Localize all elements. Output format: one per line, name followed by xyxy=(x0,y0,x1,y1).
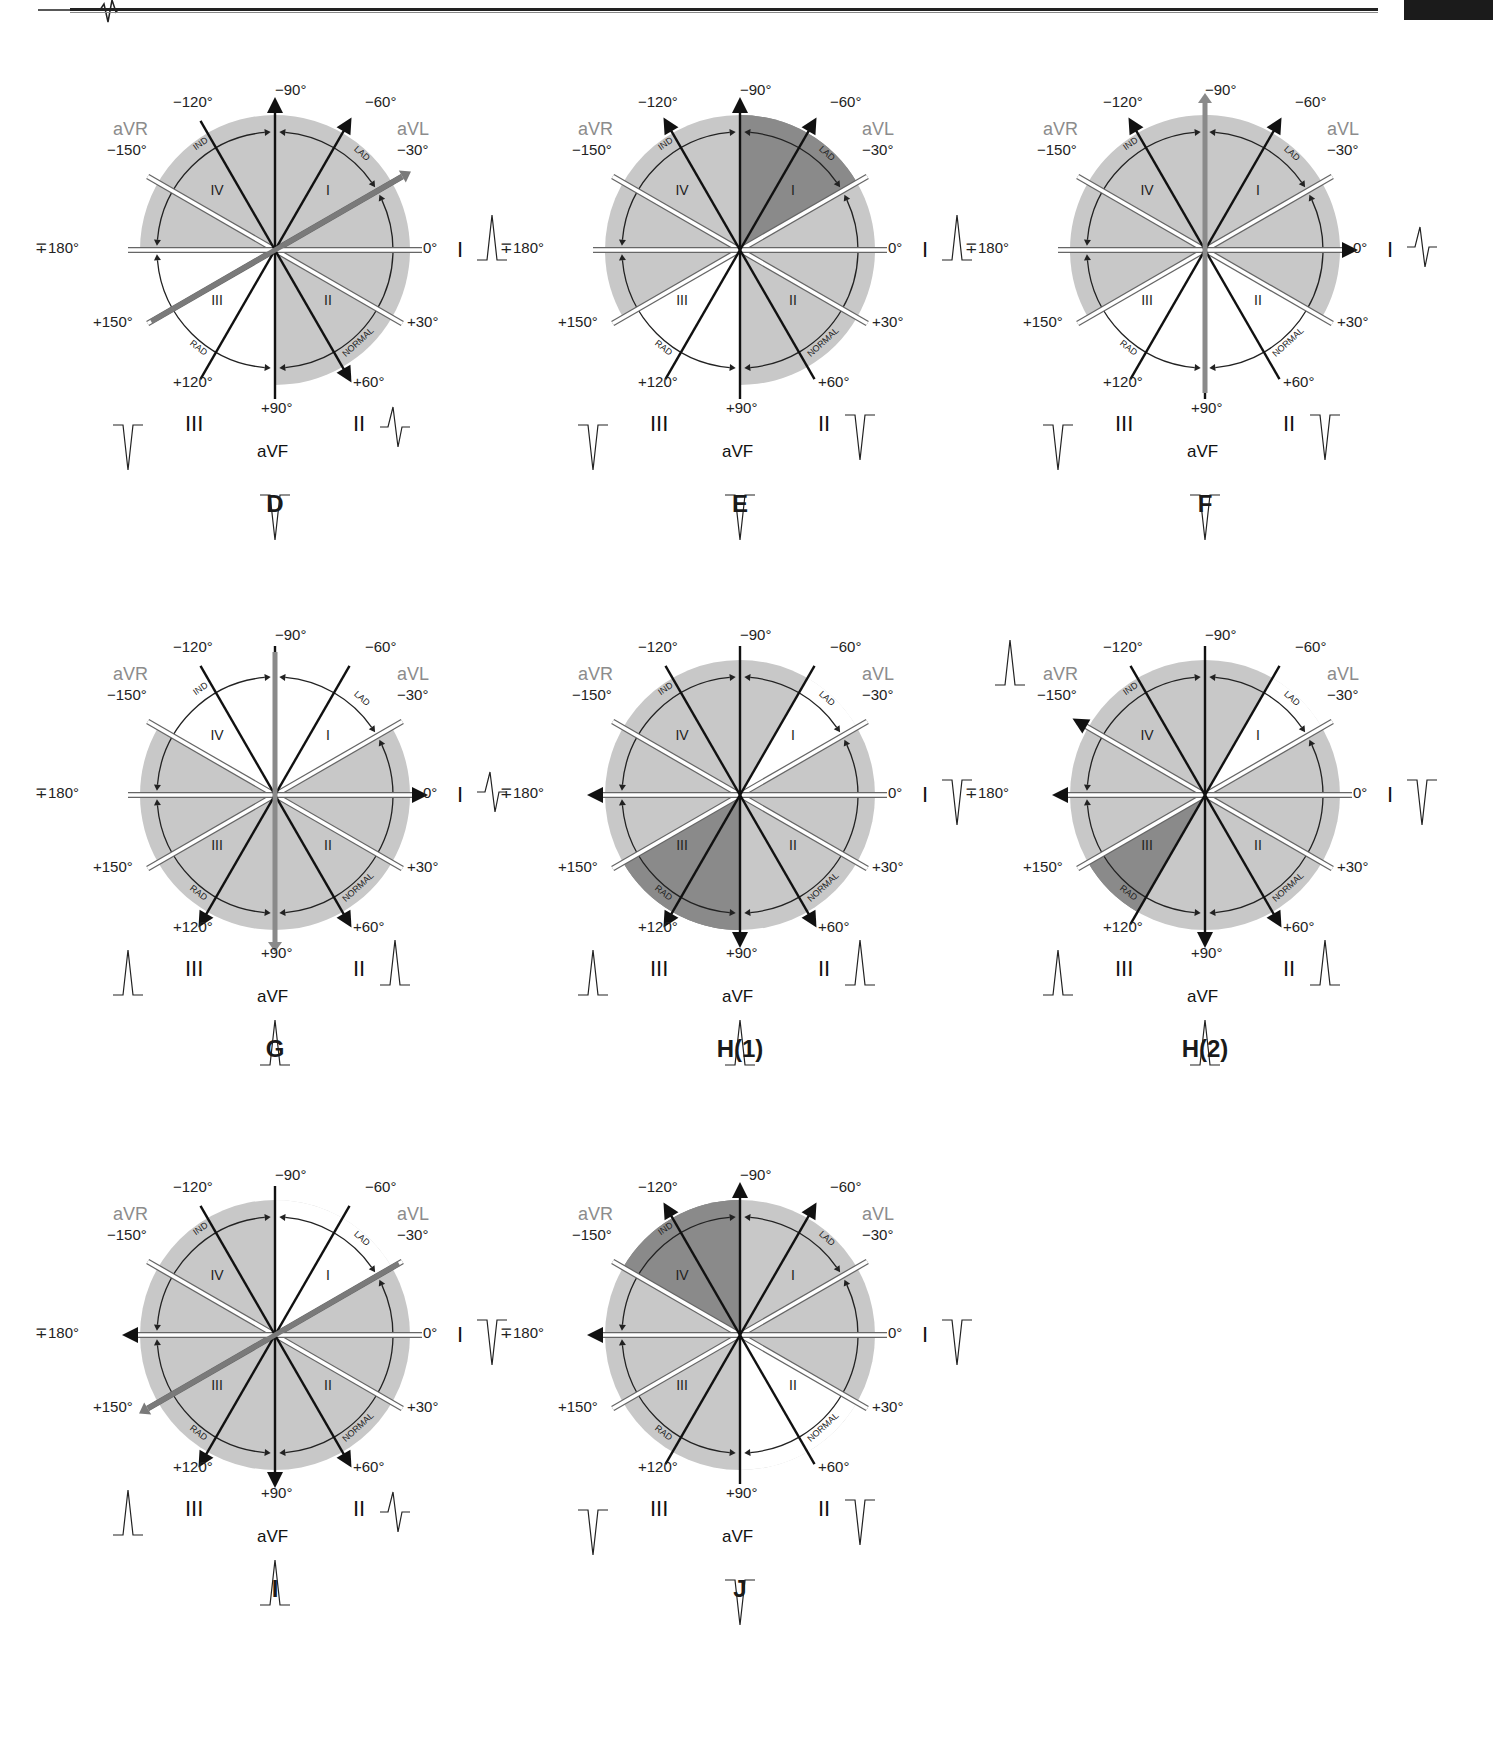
lead-label-avf: aVF xyxy=(1187,987,1218,1006)
angle-label-m120: −120° xyxy=(1103,638,1143,655)
angle-label-m30: −30° xyxy=(397,141,428,158)
angle-label-m150: −150° xyxy=(572,1226,612,1243)
qrs-wave-iii-icon xyxy=(113,950,143,995)
lead-label-i: I xyxy=(457,1322,463,1347)
angle-label-m150: −150° xyxy=(1037,686,1077,703)
lead-label-avf: aVF xyxy=(257,987,288,1006)
angle-label-p90: +90° xyxy=(1191,399,1222,416)
angle-label-m60: −60° xyxy=(830,638,861,655)
lead-label-avr: aVR xyxy=(578,1204,613,1224)
region-label-r3: III xyxy=(1141,292,1153,308)
angle-label-p180: ∓180° xyxy=(35,1324,79,1341)
qrs-wave-avr-icon xyxy=(995,640,1025,685)
qrs-wave-iii-icon xyxy=(578,950,608,995)
hexaxial-svg: −90°−120°−60°−150°−30°∓180°0°+150°+30°+1… xyxy=(5,620,465,1020)
angle-label-p120: +120° xyxy=(173,373,213,390)
angle-label-m150: −150° xyxy=(572,686,612,703)
lead-label-avl: aVL xyxy=(397,119,429,139)
angle-label-p180: ∓180° xyxy=(35,239,79,256)
arrowhead-icon xyxy=(732,97,748,113)
angle-label-p30: +30° xyxy=(1337,313,1368,330)
region-label-r1: I xyxy=(1256,182,1260,198)
lead-label-ii: II xyxy=(353,411,365,436)
lead-label-i: I xyxy=(922,782,928,807)
angle-label-m150: −150° xyxy=(572,141,612,158)
region-label-r4: IV xyxy=(675,727,689,743)
angle-label-p30: +30° xyxy=(872,313,903,330)
lead-label-iii: III xyxy=(1115,411,1133,436)
region-label-r1: I xyxy=(791,727,795,743)
region-label-r4: IV xyxy=(675,182,689,198)
lead-label-avf: aVF xyxy=(722,442,753,461)
diagram-caption: G xyxy=(215,1035,335,1063)
lead-label-avr: aVR xyxy=(1043,664,1078,684)
angle-label-m60: −60° xyxy=(1295,638,1326,655)
region-label-r1: I xyxy=(326,727,330,743)
lead-label-avf: aVF xyxy=(257,1527,288,1546)
hexaxial-diagram-g: −90°−120°−60°−150°−30°∓180°0°+150°+30°+1… xyxy=(45,640,505,1180)
lead-axes xyxy=(128,97,422,399)
angle-label-m120: −120° xyxy=(638,1178,678,1195)
angle-label-m60: −60° xyxy=(365,1178,396,1195)
angle-label-m30: −30° xyxy=(862,686,893,703)
angle-label-m120: −120° xyxy=(1103,93,1143,110)
angle-label-p120: +120° xyxy=(638,373,678,390)
angle-label-p90: +90° xyxy=(1191,944,1222,961)
lead-label-avl: aVL xyxy=(862,119,894,139)
angle-label-p90: +90° xyxy=(726,944,757,961)
hexaxial-diagram-e: −90°−120°−60°−150°−30°∓180°0°+150°+30°+1… xyxy=(510,95,970,635)
angle-label-p30: +30° xyxy=(407,858,438,875)
angle-label-p180: ∓180° xyxy=(965,784,1009,801)
region-label-r2: II xyxy=(324,1377,332,1393)
lead-label-iii: III xyxy=(185,411,203,436)
lead-label-ii: II xyxy=(818,1496,830,1521)
angle-label-p30: +30° xyxy=(407,313,438,330)
qrs-wave-iii-icon xyxy=(113,425,143,470)
region-label-r3: III xyxy=(211,292,223,308)
angle-label-p30: +30° xyxy=(1337,858,1368,875)
angle-label-zero: 0° xyxy=(423,1324,437,1341)
angle-label-m120: −120° xyxy=(173,638,213,655)
angle-label-p180: ∓180° xyxy=(965,239,1009,256)
qrs-wave-ii-icon xyxy=(1310,940,1340,985)
arrowhead-icon xyxy=(587,1327,603,1343)
lead-axes xyxy=(593,97,887,399)
lead-label-ii: II xyxy=(818,411,830,436)
lead-label-avl: aVL xyxy=(397,664,429,684)
angle-label-zero: 0° xyxy=(1353,239,1367,256)
angle-label-zero: 0° xyxy=(423,239,437,256)
angle-label-p90: +90° xyxy=(261,1484,292,1501)
angle-label-m90: −90° xyxy=(1205,626,1236,643)
angle-label-m150: −150° xyxy=(1037,141,1077,158)
region-label-r3: III xyxy=(211,1377,223,1393)
hexaxial-svg: −90°−120°−60°−150°−30°∓180°0°+150°+30°+1… xyxy=(470,75,930,475)
lead-label-avr: aVR xyxy=(1043,119,1078,139)
qrs-wave-iii-icon xyxy=(578,425,608,470)
qrs-wave-iii-icon xyxy=(113,1490,143,1535)
qrs-wave-i-icon xyxy=(942,1320,972,1365)
region-label-r2: II xyxy=(789,1377,797,1393)
diagram-caption: J xyxy=(680,1575,800,1603)
angle-label-p150: +150° xyxy=(1023,858,1063,875)
diagram-caption: E xyxy=(680,490,800,518)
angle-label-m90: −90° xyxy=(740,81,771,98)
diagram-caption: F xyxy=(1145,490,1265,518)
angle-label-m90: −90° xyxy=(740,626,771,643)
hexaxial-svg: −90°−120°−60°−150°−30°∓180°0°+150°+30°+1… xyxy=(470,620,930,1020)
angle-label-p180: ∓180° xyxy=(35,784,79,801)
angle-label-p90: +90° xyxy=(261,399,292,416)
lead-label-i: I xyxy=(457,782,463,807)
hexaxial-svg: −90°−120°−60°−150°−30°∓180°0°+150°+30°+1… xyxy=(5,75,465,475)
hexaxial-svg: −90°−120°−60°−150°−30°∓180°0°+150°+30°+1… xyxy=(935,620,1395,1020)
hexaxial-diagram-i: −90°−120°−60°−150°−30°∓180°0°+150°+30°+1… xyxy=(45,1180,505,1720)
angle-label-m150: −150° xyxy=(107,686,147,703)
angle-label-p60: +60° xyxy=(1283,918,1314,935)
lead-label-iii: III xyxy=(650,1496,668,1521)
lead-label-avl: aVL xyxy=(1327,664,1359,684)
hexaxial-diagram-h2: −90°−120°−60°−150°−30°∓180°0°+150°+30°+1… xyxy=(975,640,1435,1180)
lead-label-ii: II xyxy=(1283,411,1295,436)
angle-label-p150: +150° xyxy=(558,1398,598,1415)
angle-label-p150: +150° xyxy=(93,313,133,330)
arrowhead-icon xyxy=(587,787,603,803)
lead-label-ii: II xyxy=(818,956,830,981)
